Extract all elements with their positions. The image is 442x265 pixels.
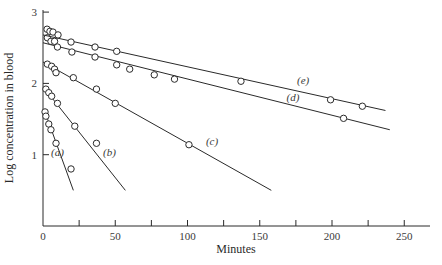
- data-point-circle-icon: [113, 48, 119, 54]
- data-point-circle-icon: [327, 97, 333, 103]
- series-label: (b): [103, 146, 116, 159]
- series-label: (c): [206, 135, 219, 148]
- data-point-circle-icon: [48, 93, 54, 99]
- data-point-circle-icon: [54, 44, 60, 50]
- data-point-circle-icon: [113, 62, 119, 68]
- data-point-circle-icon: [151, 72, 157, 78]
- y-axis-title: Log concentration in blood: [2, 53, 16, 183]
- x-tick-label: 50: [110, 230, 122, 242]
- data-point-circle-icon: [93, 86, 99, 92]
- data-point-circle-icon: [48, 127, 54, 133]
- x-tick-label: 0: [40, 230, 46, 242]
- data-point-circle-icon: [43, 113, 49, 119]
- x-tick-label: 200: [324, 230, 341, 242]
- data-point-circle-icon: [92, 44, 98, 50]
- series-label: (a): [51, 146, 64, 159]
- data-point-circle-icon: [70, 74, 76, 80]
- y-tick-label: 3: [32, 6, 38, 18]
- data-point-circle-icon: [238, 78, 244, 84]
- x-tick-label: 150: [252, 230, 269, 242]
- data-point-circle-icon: [93, 140, 99, 146]
- data-point-circle-icon: [53, 70, 59, 76]
- chart: 050100150200250123 (a)(b)(c)(d)(e) Minut…: [0, 0, 442, 265]
- data-point-circle-icon: [340, 115, 346, 121]
- data-point-circle-icon: [68, 166, 74, 172]
- x-tick-label: 100: [179, 230, 196, 242]
- data-point-circle-icon: [55, 32, 61, 38]
- axes: 050100150200250123: [32, 6, 431, 242]
- data-point-circle-icon: [72, 123, 78, 129]
- series-layer: (a)(b)(c)(d)(e): [42, 26, 390, 190]
- x-axis-title: Minutes: [216, 242, 256, 256]
- data-point-circle-icon: [92, 54, 98, 60]
- x-tick-label: 250: [396, 230, 413, 242]
- series-a: (a): [42, 109, 74, 191]
- data-point-circle-icon: [127, 66, 133, 72]
- data-point-circle-icon: [186, 142, 192, 148]
- data-point-circle-icon: [69, 49, 75, 55]
- y-tick-label: 2: [32, 77, 38, 89]
- data-point-circle-icon: [359, 103, 365, 109]
- data-point-circle-icon: [68, 39, 74, 45]
- series-label: (e): [297, 74, 310, 87]
- series-label: (d): [287, 91, 300, 104]
- data-point-circle-icon: [54, 100, 60, 106]
- data-point-circle-icon: [171, 76, 177, 82]
- y-tick-label: 1: [32, 149, 38, 161]
- data-point-circle-icon: [112, 100, 118, 106]
- series-e: (e): [43, 26, 385, 110]
